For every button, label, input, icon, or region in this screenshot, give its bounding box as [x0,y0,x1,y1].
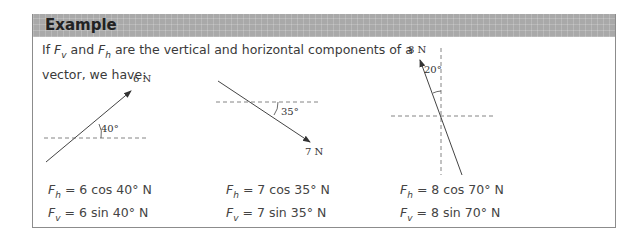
diagram-6n: 40° 6 N [44,73,152,162]
diagram-8n: 20° 8 N [391,44,495,175]
angle-label: 20° [424,64,442,75]
angle-label: 40° [101,123,119,134]
equation-fh-2: Fh = 7 cos 35° N [226,182,330,200]
angle-label: 35° [281,106,299,117]
equation-rhs: = 7 cos 35° N [239,182,330,197]
force-label: 6 N [133,73,152,84]
force-label: 8 N [408,44,427,55]
angle-arc [433,91,441,93]
equation-fv-2: Fv = 7 sin 35° N [226,205,326,223]
equation-fv-1: Fv = 6 sin 40° N [48,205,148,223]
diagram-7n: 35° 7 N [216,81,324,157]
equation-rhs: = 7 sin 35° N [239,205,327,220]
equation-rhs: = 8 cos 70° N [413,182,504,197]
equation-fv-3: Fv = 8 sin 70° N [400,205,500,223]
equation-fh-1: Fh = 6 cos 40° N [48,182,152,200]
equation-rhs: = 8 sin 70° N [413,205,501,220]
equation-fh-3: Fh = 8 cos 70° N [400,182,504,200]
force-label: 7 N [305,146,324,157]
equation-rhs: = 6 cos 40° N [61,182,152,197]
equation-rhs: = 6 sin 40° N [61,205,149,220]
angle-arc [274,102,278,115]
